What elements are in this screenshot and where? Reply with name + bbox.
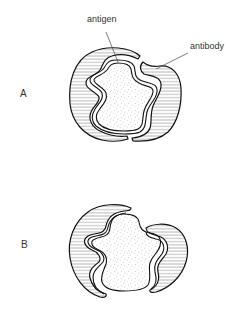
antigen-antibody-diagram: A antigen antibody B xyxy=(0,0,237,310)
panel-label-b: B xyxy=(21,239,28,250)
antibody-label: antibody xyxy=(190,41,225,51)
antigen-label: antigen xyxy=(87,14,117,24)
panel-a: A antigen antibody xyxy=(20,14,225,141)
antibody-leader-line xyxy=(156,53,188,69)
panel-label-a: A xyxy=(20,88,27,99)
panel-b: B xyxy=(21,205,188,298)
